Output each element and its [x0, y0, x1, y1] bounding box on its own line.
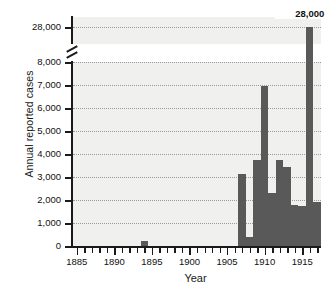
x-axis-tick	[317, 248, 318, 253]
gridline-y	[73, 131, 321, 132]
gridline-y	[73, 108, 321, 109]
y-axis-tick-label: 3,000	[1, 171, 61, 182]
x-axis-tick	[205, 248, 206, 253]
x-axis-tick	[295, 248, 296, 253]
gridline-y	[73, 62, 321, 63]
x-axis-tick	[220, 248, 221, 253]
x-axis-tick-label: 1900	[169, 256, 209, 267]
plot-area-upper-segment	[73, 17, 321, 46]
bar	[238, 174, 246, 246]
x-axis-tick	[302, 248, 303, 255]
y-axis-tick	[65, 85, 72, 87]
x-axis-tick	[189, 248, 190, 255]
x-axis-tick-label: 1890	[94, 256, 134, 267]
y-axis-tick	[65, 154, 72, 156]
x-axis-tick	[122, 248, 123, 253]
x-axis-tick	[310, 248, 311, 253]
x-axis-tick	[167, 248, 168, 253]
x-axis-tick-label: 1910	[245, 256, 285, 267]
x-axis-tick	[84, 248, 85, 253]
y-axis-tick-label: 8,000	[1, 56, 61, 67]
y-axis-tick-label: 6,000	[1, 102, 61, 113]
x-axis-tick	[159, 248, 160, 253]
bar	[283, 167, 291, 246]
y-axis-tick-label: 4,000	[1, 148, 61, 159]
bar	[141, 241, 149, 246]
x-axis-tick	[92, 248, 93, 253]
x-axis-tick	[265, 248, 266, 255]
x-axis-tick	[197, 248, 198, 253]
y-axis-line-upper	[71, 16, 73, 46]
x-axis-tick-label: 1905	[207, 256, 247, 267]
x-axis-tick	[280, 248, 281, 253]
x-axis-tick	[107, 248, 108, 253]
x-axis-tick	[137, 248, 138, 253]
x-axis-line	[71, 246, 321, 248]
gridline-y	[73, 154, 321, 155]
bar	[313, 202, 321, 246]
chart-container: Annual reported cases Year 28,000 28,000…	[0, 0, 331, 299]
bar	[298, 206, 306, 246]
x-axis-tick	[235, 248, 236, 253]
x-axis-tick	[250, 248, 251, 253]
bar	[276, 160, 284, 246]
x-axis-tick	[257, 248, 258, 253]
x-axis-tick	[114, 248, 115, 255]
x-axis-tick	[227, 248, 228, 255]
x-axis-tick	[182, 248, 183, 253]
y-axis-tick	[65, 62, 72, 64]
y-axis-tick	[65, 131, 72, 133]
x-axis-tick-label: 1885	[57, 256, 97, 267]
y-axis-tick	[65, 177, 72, 179]
bar	[268, 193, 276, 246]
gridline-y	[73, 85, 321, 86]
y-axis-tick	[65, 200, 72, 202]
x-axis-tick	[144, 248, 145, 253]
x-axis-tick	[287, 248, 288, 253]
x-axis-tick-label: 1895	[132, 256, 172, 267]
x-axis-tick	[99, 248, 100, 253]
x-axis-tick	[212, 248, 213, 253]
y-axis-tick-label: 5,000	[1, 125, 61, 136]
bar	[253, 160, 261, 246]
bar	[261, 86, 269, 246]
y-axis-tick	[65, 27, 72, 29]
x-axis-tick-label: 1915	[282, 256, 322, 267]
x-axis-tick	[242, 248, 243, 253]
y-axis-tick-label: 0	[1, 240, 61, 251]
x-axis-title: Year	[60, 272, 331, 284]
bar	[291, 205, 299, 246]
bar	[246, 237, 254, 246]
bar-upper-segment	[306, 27, 314, 46]
gridline-y-upper	[73, 27, 321, 28]
x-axis-tick	[129, 248, 130, 253]
y-axis-tick-label: 2,000	[1, 194, 61, 205]
y-axis-tick	[65, 108, 72, 110]
x-axis-tick	[77, 248, 78, 255]
y-axis-tick	[65, 223, 72, 225]
y-axis-tick-label: 1,000	[1, 217, 61, 228]
x-axis-tick	[152, 248, 153, 255]
axis-break-gap	[64, 44, 326, 60]
y-axis-tick-label: 7,000	[1, 79, 61, 90]
x-axis-tick	[174, 248, 175, 253]
x-axis-tick	[272, 248, 273, 253]
peak-value-annotation: 28,000	[275, 8, 331, 19]
bar	[306, 46, 314, 246]
y-axis-tick-label: 28,000	[1, 21, 61, 32]
y-axis-tick	[65, 246, 72, 248]
